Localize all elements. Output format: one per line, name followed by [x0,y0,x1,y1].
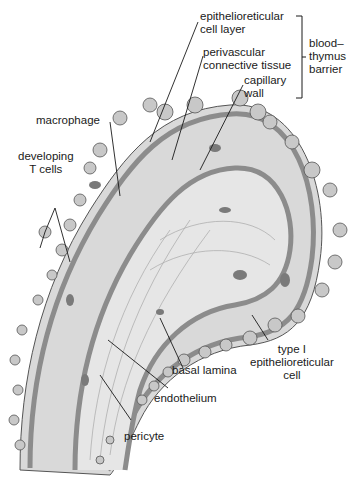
label-line: epithelioreticular [200,10,284,23]
label-line: capillary [244,74,286,87]
label-line: epithelioreticular [250,356,334,369]
label-line: type I [250,343,334,356]
label-line: blood– [309,37,346,50]
barrier-bracket [296,16,306,98]
label-line: connective tissue [203,59,291,72]
label-perivascular-connective-tissue: perivascular connective tissue [203,46,291,72]
label-line: perivascular [203,46,291,59]
label-line: wall [244,87,286,100]
label-line: T cells [18,163,74,176]
label-epithelioreticular-cell-layer: epithelioreticular cell layer [200,10,284,36]
label-endothelium: endothelium [154,392,217,405]
label-basal-lamina: basal lamina [172,364,237,377]
label-line: developing [18,150,74,163]
label-line: cell layer [200,23,284,36]
label-line: barrier [309,63,346,76]
label-type-i-epithelioreticular-cell: type I epithelioreticular cell [250,343,334,382]
label-line: cell [250,369,334,382]
blood-thymus-barrier-diagram [0,0,361,482]
label-capillary-wall: capillary wall [244,74,286,100]
label-pericyte: pericyte [124,430,164,443]
label-blood-thymus-barrier: blood– thymus barrier [309,37,346,76]
label-developing-t-cells: developing T cells [18,150,74,176]
label-macrophage: macrophage [36,114,100,127]
label-line: thymus [309,50,346,63]
